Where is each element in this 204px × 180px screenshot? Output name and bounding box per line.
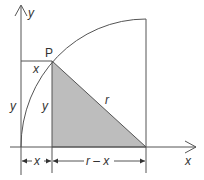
dim-rx-arrow-right-icon	[140, 159, 145, 164]
top-x-label: x	[32, 62, 40, 76]
shaded-triangle	[52, 61, 146, 147]
inner-y-label: y	[41, 99, 49, 113]
y-axis-label: y	[27, 6, 35, 20]
point-p-label: P	[45, 46, 53, 60]
dim-x-label: x	[33, 154, 41, 168]
dim-r-minus-x-label: r – x	[86, 154, 110, 168]
dim-x-arrow-left-icon	[22, 159, 27, 164]
hypotenuse-r-label: r	[105, 93, 110, 107]
left-y-label: y	[9, 99, 17, 113]
dim-x-arrow-right-icon	[46, 159, 51, 164]
x-axis-label: x	[184, 154, 192, 168]
geometry-diagram: y x P x y y r x r – x	[0, 0, 204, 180]
dim-rx-arrow-left-icon	[53, 159, 58, 164]
